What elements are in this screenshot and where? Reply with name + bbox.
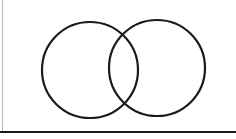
venn-diagram-frame (0, 0, 236, 139)
venn-diagram (0, 0, 236, 139)
venn-circle-b (109, 20, 205, 116)
bottom-rule (0, 131, 236, 133)
